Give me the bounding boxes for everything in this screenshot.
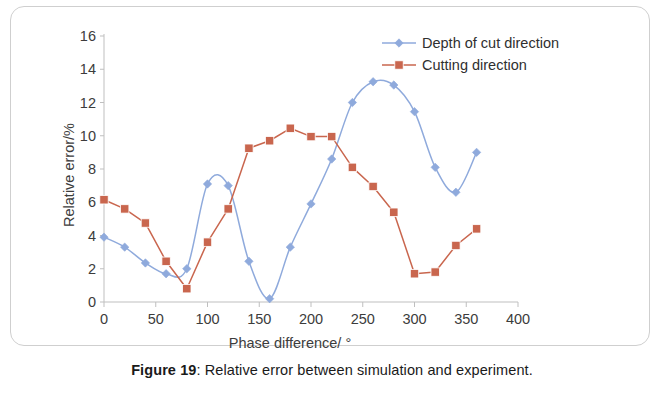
series-2 xyxy=(100,124,481,293)
figure-caption-label: Figure 19 xyxy=(131,362,196,378)
data-point-s1-140 xyxy=(245,257,253,265)
data-point-s1-0 xyxy=(100,233,108,241)
figure-caption-text: Relative error between simulation and ex… xyxy=(205,362,533,378)
data-point-s2-260 xyxy=(369,182,377,190)
x-tick-300: 300 xyxy=(402,311,426,327)
axis-lines xyxy=(100,34,518,307)
data-point-s1-120 xyxy=(224,181,232,189)
data-point-s2-80 xyxy=(183,285,191,293)
data-point-s2-20 xyxy=(121,205,129,213)
data-point-s2-320 xyxy=(431,268,439,276)
data-point-s1-260 xyxy=(369,78,377,86)
y-tick-0: 0 xyxy=(88,294,96,310)
data-point-s2-200 xyxy=(307,132,315,140)
y-tick-14: 14 xyxy=(80,61,96,77)
data-point-s2-340 xyxy=(452,241,460,249)
x-tick-200: 200 xyxy=(299,311,323,327)
data-point-s1-60 xyxy=(162,270,170,278)
series-line-2 xyxy=(104,128,477,288)
data-point-s2-240 xyxy=(348,163,356,171)
series-1 xyxy=(100,78,481,303)
data-point-s2-60 xyxy=(162,257,170,265)
legend-label-1: Depth of cut direction xyxy=(422,35,559,51)
data-point-s2-0 xyxy=(100,196,108,204)
x-axis-title: Phase difference/ ° xyxy=(229,335,351,351)
relative-error-line-chart: 0246810121416 050100150200250300350400 D… xyxy=(0,0,664,360)
y-tick-4: 4 xyxy=(88,228,96,244)
data-point-s1-360 xyxy=(472,148,480,156)
x-tick-400: 400 xyxy=(506,311,530,327)
x-tick-50: 50 xyxy=(148,311,164,327)
y-tick-8: 8 xyxy=(88,161,96,177)
legend-marker-2 xyxy=(395,61,403,69)
y-tick-2: 2 xyxy=(88,261,96,277)
data-point-s2-160 xyxy=(265,137,273,145)
series-line-1 xyxy=(104,80,477,299)
data-point-s1-100 xyxy=(203,180,211,188)
figure-container: 0246810121416 050100150200250300350400 D… xyxy=(0,0,664,407)
x-tick-250: 250 xyxy=(351,311,375,327)
x-tick-0: 0 xyxy=(100,311,108,327)
data-point-s1-180 xyxy=(286,243,294,251)
data-point-s2-300 xyxy=(410,270,418,278)
data-point-s1-240 xyxy=(348,98,356,106)
chart-legend: Depth of cut directionCutting direction xyxy=(382,35,559,73)
data-point-s2-120 xyxy=(224,205,232,213)
data-point-s1-300 xyxy=(410,107,418,115)
y-tick-6: 6 xyxy=(88,194,96,210)
data-point-s1-80 xyxy=(183,265,191,273)
legend-marker-1 xyxy=(395,39,403,47)
x-tick-100: 100 xyxy=(195,311,219,327)
data-point-s1-200 xyxy=(307,200,315,208)
data-point-s2-360 xyxy=(472,225,480,233)
data-point-s2-100 xyxy=(203,238,211,246)
data-point-s2-40 xyxy=(141,219,149,227)
data-point-s2-220 xyxy=(328,132,336,140)
figure-caption: Figure 19: Relative error between simula… xyxy=(0,362,664,378)
y-axis-title: Relative error/% xyxy=(61,123,77,227)
y-tick-16: 16 xyxy=(80,28,96,44)
x-axis-tick-labels: 050100150200250300350400 xyxy=(100,311,530,327)
data-point-s2-180 xyxy=(286,124,294,132)
y-axis-tick-labels: 0246810121416 xyxy=(80,28,96,310)
data-series-layer xyxy=(100,78,481,303)
data-point-s1-220 xyxy=(328,155,336,163)
legend-label-2: Cutting direction xyxy=(422,57,527,73)
data-point-s2-280 xyxy=(390,208,398,216)
x-tick-350: 350 xyxy=(454,311,478,327)
data-point-s1-320 xyxy=(431,163,439,171)
figure-caption-separator: : xyxy=(197,362,205,378)
y-tick-12: 12 xyxy=(80,95,96,111)
y-tick-10: 10 xyxy=(80,128,96,144)
data-point-s2-140 xyxy=(245,144,253,152)
x-tick-150: 150 xyxy=(247,311,271,327)
